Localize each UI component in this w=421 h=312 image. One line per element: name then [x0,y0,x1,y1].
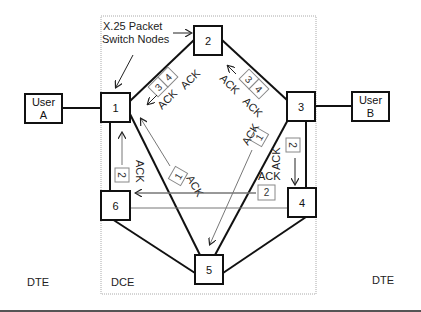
node-5: 5 [195,255,223,284]
svg-text:3: 3 [298,101,304,113]
ack-1-mid-left: ACK [184,173,206,199]
node-2: 2 [194,26,222,55]
annotation-line2: Switch Nodes [102,33,170,45]
links [62,40,352,273]
svg-text:User: User [359,94,383,106]
dce-boundary [101,16,316,294]
label-dte-left: DTE [27,276,49,288]
svg-text:2: 2 [116,172,127,178]
svg-text:2: 2 [264,187,270,198]
packets-2-3: 3 4 [239,69,269,99]
arrow-to-node1-mid [141,119,170,166]
packet-2-left: 2 [115,168,129,182]
arrow-to-node2 [228,66,236,74]
annotation-arrow-node1 [116,55,133,87]
user-a: User A [25,94,62,123]
packet-2-horiz: 2 [258,185,275,200]
label-dte-right: DTE [372,274,394,286]
ack-4-left: ACK [178,66,203,91]
svg-text:B: B [367,107,374,119]
svg-text:6: 6 [112,200,118,212]
node-4: 4 [288,188,316,217]
ack-2-right-vert: ACK [270,147,282,170]
svg-text:1: 1 [112,102,118,114]
node-6: 6 [101,191,130,220]
svg-text:2: 2 [287,142,298,148]
svg-text:5: 5 [206,264,212,276]
annotation-line1: X.25 Packet [103,20,162,32]
ack-2-left: ACK [134,160,146,183]
ack-2-horiz: ACK [258,170,281,182]
svg-text:2: 2 [205,35,211,47]
node-3: 3 [287,92,315,121]
svg-text:A: A [40,109,48,121]
label-dce: DCE [111,276,134,288]
ack-4-right: ACK [241,95,266,120]
node-1: 1 [101,93,130,122]
svg-text:4: 4 [299,197,305,209]
packet-1-mid-left: 1 [168,166,187,185]
ack-3-right: ACK [218,72,243,97]
x25-diagram: User A User B 1 2 3 4 5 6 X.25 Packet Sw… [0,0,421,312]
packet-2-right-vert: 2 [286,138,300,152]
user-b: User B [352,92,389,121]
svg-text:User: User [32,96,56,108]
